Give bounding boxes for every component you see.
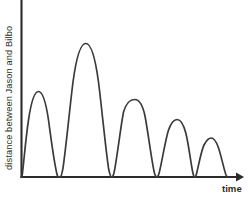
oscillation-curve: [22, 44, 228, 178]
x-axis-label: time: [222, 183, 242, 194]
x-axis-arrow-icon: [236, 173, 244, 182]
y-axis-label: distance between Jason and Bilbo: [4, 26, 14, 170]
plot-canvas: distance between Jason and Bilbo time: [0, 0, 248, 197]
chart-figure: distance between Jason and Bilbo time: [0, 0, 248, 197]
